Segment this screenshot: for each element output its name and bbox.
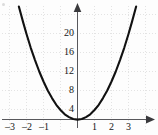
x-tick-label-neg1: –1 [36,122,52,132]
y-axis-arrowhead [74,3,82,12]
x-tick-label-1: 1 [88,122,101,132]
y-tick-label-12: 12 [56,66,74,76]
plot-canvas [0,0,158,135]
x-tick-label-2: 2 [105,122,118,132]
y-tick-label-8: 8 [56,85,74,95]
x-axis-arrowhead [146,116,155,124]
y-tick-label-16: 16 [56,47,74,57]
x-tick-label-3: 3 [122,122,135,132]
parabola-graph-figure: 20 16 12 8 4 –3 –2 –1 1 2 3 [0,0,158,135]
x-tick-label-neg3: –3 [2,122,18,132]
y-tick-label-4: 4 [56,104,74,114]
x-tick-label-neg2: –2 [19,122,35,132]
y-tick-label-20: 20 [56,28,74,38]
